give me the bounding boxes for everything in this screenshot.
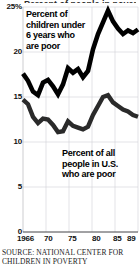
y-axis-tick-labels: 25%20151050 xyxy=(0,0,22,247)
y-tick-label: 25% xyxy=(1,3,22,11)
y-tick-label: 10 xyxy=(1,138,22,146)
x-axis-tick-labels: 19667075808589 xyxy=(0,234,140,246)
series-line-all-people xyxy=(23,95,138,132)
series-annotation-all-people: Percent of all people in U.S. who are po… xyxy=(62,148,138,180)
x-tick-label: 85 xyxy=(113,234,122,243)
x-tick-label: 80 xyxy=(92,234,101,243)
y-tick-label: 20 xyxy=(1,48,22,56)
poverty-rate-chart: Percent of people in poverty 25%20151050… xyxy=(0,0,140,267)
x-tick-label: 70 xyxy=(44,234,53,243)
source-note: SOURCE: NATIONAL CENTER FOR CHILDREN IN … xyxy=(2,249,140,266)
series-annotation-children-under-6: Percent of children under 6 years who ar… xyxy=(26,9,100,51)
y-tick-label: 15 xyxy=(1,93,22,101)
y-tick-label: 5 xyxy=(1,183,22,191)
x-tick-label: 1966 xyxy=(17,234,34,243)
x-tick-label: 75 xyxy=(68,234,77,243)
x-tick-label: 89 xyxy=(127,234,136,243)
